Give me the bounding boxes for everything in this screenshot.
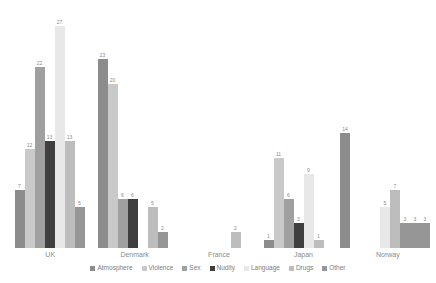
bar[interactable]: 14 bbox=[340, 133, 350, 248]
bar-value-label: 12 bbox=[27, 142, 33, 148]
bar[interactable]: 5 bbox=[75, 207, 85, 248]
bar[interactable]: 7 bbox=[390, 190, 400, 248]
legend-label: Nudity bbox=[217, 264, 235, 272]
bar-group-bars: 1457333 bbox=[340, 6, 430, 248]
bar-slot bbox=[360, 6, 370, 248]
bar-slot: 9 bbox=[304, 6, 314, 248]
bar[interactable]: 2 bbox=[158, 232, 168, 248]
bar-slot: 1 bbox=[264, 6, 274, 248]
bar-groups: 71222132713523206652211163911457333 bbox=[8, 6, 430, 248]
bar-value-label: 2 bbox=[161, 225, 164, 231]
bar[interactable]: 20 bbox=[108, 84, 118, 248]
bar[interactable]: 9 bbox=[304, 174, 314, 248]
bar-group-bars: 2 bbox=[181, 6, 251, 248]
legend-label: Sex bbox=[189, 264, 200, 272]
bar-slot bbox=[324, 6, 334, 248]
bar[interactable]: 5 bbox=[380, 207, 390, 248]
bar-slot: 3 bbox=[294, 6, 304, 248]
bar-value-label: 23 bbox=[100, 52, 106, 58]
x-axis-labels: UKDenmarkFranceJapanNorway bbox=[8, 250, 430, 262]
legend-item-language[interactable]: Language bbox=[244, 264, 280, 272]
legend-item-drugs[interactable]: Drugs bbox=[289, 264, 313, 272]
bar-slot: 2 bbox=[231, 6, 241, 248]
bar[interactable]: 2 bbox=[231, 232, 241, 248]
legend-swatch-icon bbox=[182, 266, 187, 271]
bar-slot: 20 bbox=[108, 6, 118, 248]
legend-label: Violence bbox=[149, 264, 174, 272]
legend-swatch-icon bbox=[210, 266, 215, 271]
bar[interactable]: 3 bbox=[400, 223, 410, 248]
bar-value-label: 14 bbox=[342, 126, 348, 132]
bar-slot: 13 bbox=[45, 6, 55, 248]
bar-value-label: 20 bbox=[110, 77, 116, 83]
bar-slot: 7 bbox=[390, 6, 400, 248]
bar-value-label: 3 bbox=[297, 216, 300, 222]
bar[interactable]: 12 bbox=[25, 149, 35, 248]
bar-slot bbox=[221, 6, 231, 248]
bar[interactable]: 3 bbox=[420, 223, 430, 248]
bar-slot: 5 bbox=[380, 6, 390, 248]
bar-value-label: 13 bbox=[47, 134, 53, 140]
bar-value-label: 27 bbox=[57, 19, 63, 25]
bar[interactable]: 6 bbox=[284, 199, 294, 248]
bar-slot: 22 bbox=[35, 6, 45, 248]
bar-chart: 71222132713523206652211163911457333 UKDe… bbox=[0, 0, 436, 283]
bar-value-label: 3 bbox=[404, 216, 407, 222]
bar-slot: 5 bbox=[75, 6, 85, 248]
legend-item-nudity[interactable]: Nudity bbox=[210, 264, 235, 272]
bar-value-label: 7 bbox=[394, 183, 397, 189]
bar-value-label: 13 bbox=[67, 134, 73, 140]
axis-label-france: France bbox=[177, 250, 261, 262]
bar[interactable]: 13 bbox=[65, 141, 75, 248]
axis-label-japan: Japan bbox=[261, 250, 345, 262]
bar-value-label: 5 bbox=[151, 200, 154, 206]
bar[interactable]: 7 bbox=[15, 190, 25, 248]
bar[interactable]: 5 bbox=[148, 207, 158, 248]
bar-group-denmark: 23206652 bbox=[91, 6, 174, 248]
bar[interactable]: 22 bbox=[35, 67, 45, 248]
bar-slot: 14 bbox=[340, 6, 350, 248]
bar-slot bbox=[191, 6, 201, 248]
bar[interactable]: 3 bbox=[294, 223, 304, 248]
bar-slot: 11 bbox=[274, 6, 284, 248]
legend-swatch-icon bbox=[289, 266, 294, 271]
bar-value-label: 6 bbox=[287, 192, 290, 198]
bar[interactable]: 6 bbox=[118, 199, 128, 248]
bar[interactable]: 3 bbox=[410, 223, 420, 248]
bar-slot: 6 bbox=[118, 6, 128, 248]
bar-slot: 23 bbox=[98, 6, 108, 248]
axis-label-norway: Norway bbox=[346, 250, 430, 262]
bar[interactable]: 23 bbox=[98, 59, 108, 248]
bar[interactable]: 27 bbox=[55, 26, 65, 248]
bar-slot: 5 bbox=[148, 6, 158, 248]
bar[interactable]: 1 bbox=[264, 240, 274, 248]
bar-slot: 27 bbox=[55, 6, 65, 248]
bar-slot: 3 bbox=[400, 6, 410, 248]
bar-slot: 3 bbox=[420, 6, 430, 248]
bar[interactable]: 1 bbox=[314, 240, 324, 248]
bar[interactable]: 6 bbox=[128, 199, 138, 248]
bar-slot bbox=[181, 6, 191, 248]
bar[interactable]: 11 bbox=[274, 158, 284, 248]
legend-label: Language bbox=[251, 264, 280, 272]
legend-item-violence[interactable]: Violence bbox=[142, 264, 174, 272]
bar-slot bbox=[241, 6, 251, 248]
bar-slot: 1 bbox=[314, 6, 324, 248]
legend-item-atmosphere[interactable]: Atmosphere bbox=[90, 264, 132, 272]
legend-item-other[interactable]: Other bbox=[322, 264, 345, 272]
legend-label: Drugs bbox=[296, 264, 313, 272]
legend-item-sex[interactable]: Sex bbox=[182, 264, 200, 272]
legend-swatch-icon bbox=[322, 266, 327, 271]
axis-label-denmark: Denmark bbox=[92, 250, 176, 262]
chart-legend: AtmosphereViolenceSexNudityLanguageDrugs… bbox=[0, 264, 436, 272]
bar-group-france: 2 bbox=[174, 6, 257, 248]
bar-group-bars: 712221327135 bbox=[15, 6, 85, 248]
bar-group-uk: 712221327135 bbox=[8, 6, 91, 248]
bar-value-label: 22 bbox=[37, 60, 43, 66]
bar-group-bars: 1116391 bbox=[264, 6, 334, 248]
bar[interactable]: 13 bbox=[45, 141, 55, 248]
bar-slot bbox=[138, 6, 148, 248]
bar-value-label: 5 bbox=[384, 200, 387, 206]
bar-slot: 6 bbox=[128, 6, 138, 248]
legend-swatch-icon bbox=[244, 266, 249, 271]
